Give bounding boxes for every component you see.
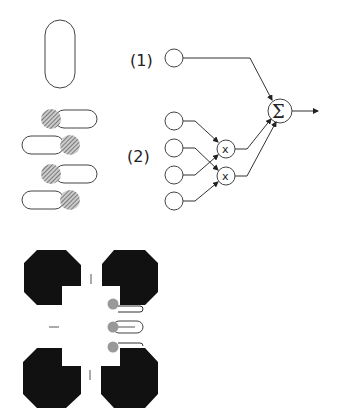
single-capsule xyxy=(45,20,75,88)
paired-capsules xyxy=(22,109,97,210)
svg-text:Σ: Σ xyxy=(272,101,285,122)
input-node xyxy=(165,112,183,130)
hatched-end-icon xyxy=(60,135,80,155)
term1-label: (1) xyxy=(130,51,153,70)
diagram-canvas: (1) (2) x x Σ xyxy=(0,0,340,418)
term2-label: (2) xyxy=(127,147,150,166)
svg-text:x: x xyxy=(222,170,229,183)
hatched-end-icon xyxy=(60,190,80,210)
gray-dot-icon xyxy=(108,342,119,353)
svg-text:x: x xyxy=(222,143,229,156)
input-node xyxy=(165,192,183,210)
network-diagram: (1) (2) x x Σ xyxy=(127,49,318,210)
octagon-arrangement xyxy=(23,250,158,408)
input-node xyxy=(165,166,183,184)
hatched-end-icon xyxy=(41,164,61,184)
input-node xyxy=(165,49,183,67)
gray-dot-icon xyxy=(108,299,119,310)
input-node xyxy=(165,139,183,157)
gray-dot-icon xyxy=(108,322,119,333)
hatched-end-icon xyxy=(41,109,61,129)
